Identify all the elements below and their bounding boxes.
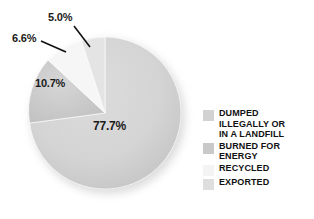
- pie-label-dumped: 77.7%: [93, 120, 126, 132]
- pie-label-exported: 5.0%: [48, 12, 72, 23]
- legend-swatch-icon-burned: [203, 143, 214, 154]
- legend-item-recycled[interactable]: RECYCLED: [203, 163, 314, 176]
- legend-swatch-icon-recycled: [203, 165, 214, 176]
- legend-swatch-icon-dumped: [203, 110, 214, 121]
- legend-item-exported[interactable]: EXPORTED: [203, 177, 314, 190]
- pie-label-burned: 10.7%: [35, 78, 65, 89]
- pie-label-recycled: 6.6%: [12, 33, 36, 44]
- legend-item-dumped[interactable]: DUMPED ILLEGALLY OR IN A LANDFILL: [203, 108, 314, 140]
- legend-label-burned: BURNED FOR ENERGY: [219, 141, 280, 162]
- legend-label-exported: EXPORTED: [219, 177, 269, 188]
- leader-line-recycled: [41, 41, 66, 52]
- legend-item-burned[interactable]: BURNED FOR ENERGY: [203, 141, 314, 162]
- pie-chart-figure: 5.0% 6.6% 10.7% 77.7% DUMPED ILLEGALLY O…: [0, 0, 314, 219]
- pie-chart-area: 5.0% 6.6% 10.7% 77.7%: [0, 0, 200, 219]
- legend-label-dumped: DUMPED ILLEGALLY OR IN A LANDFILL: [219, 108, 285, 140]
- legend-swatch-icon-exported: [203, 179, 214, 190]
- legend: DUMPED ILLEGALLY OR IN A LANDFILL BURNED…: [203, 108, 314, 191]
- legend-label-recycled: RECYCLED: [219, 163, 269, 174]
